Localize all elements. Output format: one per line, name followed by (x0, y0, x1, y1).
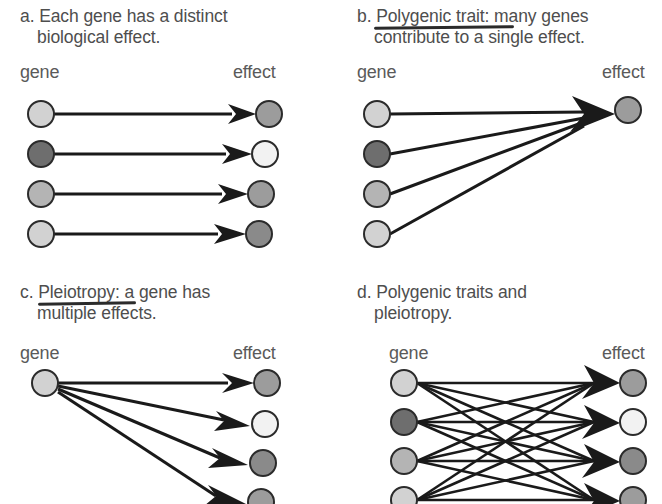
gene-node (391, 448, 417, 474)
panel-c: c. Pleiotropy: a gene has multiple effec… (0, 252, 332, 504)
effect-node (254, 370, 280, 396)
gene-node (28, 101, 54, 127)
panel-b-edges (390, 96, 615, 234)
arrowhead (204, 485, 246, 504)
panel-a: a. Each gene has a distinct biological e… (0, 0, 332, 252)
edge-gene2-effect2 (54, 144, 252, 164)
edge-gene1-effect1 (390, 112, 584, 114)
gene-effect-figure: a. Each gene has a distinct biological e… (0, 0, 662, 504)
panel-d-gene-nodes (391, 370, 417, 504)
arrowhead (214, 411, 250, 431)
gene-node (364, 101, 390, 127)
panel-d-edges (417, 383, 594, 500)
arrowhead-converging (570, 96, 615, 132)
panel-c-graph (0, 252, 332, 504)
gene-node (28, 181, 54, 207)
panel-d-graph (332, 252, 662, 504)
edge-gene4-effect4 (54, 224, 246, 244)
edge-gene4-effect1 (390, 126, 584, 234)
effect-node (620, 370, 646, 396)
effect-node (248, 489, 274, 504)
effect-node (252, 411, 278, 437)
effect-node (620, 487, 646, 504)
panel-a-gene-nodes (28, 101, 54, 247)
panel-d: d. Polygenic traits and pleiotropy. gene… (332, 252, 662, 504)
gene-node (391, 487, 417, 504)
gene-node (28, 221, 54, 247)
effect-node (620, 409, 646, 435)
effect-node (250, 450, 276, 476)
panel-a-edges (54, 104, 256, 244)
edge-gene1-effect2 (58, 386, 224, 420)
panel-c-effect-nodes (248, 370, 280, 504)
gene-node (364, 141, 390, 167)
edge-gene3-effect3 (54, 184, 248, 204)
effect-node (620, 448, 646, 474)
panel-b: b. Polygenic trait: many genes contribut… (332, 0, 662, 252)
panel-b-graph (332, 0, 662, 252)
panel-a-effect-nodes (246, 101, 282, 247)
gene-node (28, 141, 54, 167)
effect-node (252, 141, 278, 167)
panel-b-effect-nodes (615, 97, 641, 123)
gene-node (364, 181, 390, 207)
panel-b-gene-nodes (364, 101, 390, 247)
edge-gene1-effect1 (54, 104, 256, 124)
edge-gene3-effect1 (390, 122, 584, 194)
panel-d-effect-nodes (620, 370, 646, 504)
gene-node (391, 409, 417, 435)
panel-a-graph (0, 0, 332, 252)
panel-c-gene-nodes (32, 370, 58, 396)
edge-gene1-effect3 (58, 389, 220, 458)
gene-node (391, 370, 417, 396)
edge-gene1-effect4 (58, 392, 216, 496)
effect-node (256, 101, 282, 127)
gene-node (32, 370, 58, 396)
effect-node (248, 181, 274, 207)
gene-node (364, 221, 390, 247)
edge-gene2-effect1 (390, 118, 584, 154)
effect-node (246, 221, 272, 247)
arrowhead (208, 448, 248, 468)
panel-c-edges (58, 373, 254, 504)
effect-node (615, 97, 641, 123)
